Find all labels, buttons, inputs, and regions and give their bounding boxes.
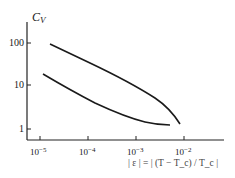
x-tick-exp: −2: [184, 146, 191, 154]
y-tick-label-10: 10: [2, 80, 24, 90]
y-tick-label-100: 100: [2, 38, 24, 48]
lower-curve: [43, 74, 170, 125]
y-axis-label: CV: [32, 12, 46, 25]
y-tick-label-1: 1: [2, 124, 24, 134]
x-tick-base: 10: [127, 147, 136, 157]
x-tick-base: 10: [30, 147, 39, 157]
x-tick-exp: −3: [136, 146, 143, 154]
y-label-sub: V: [40, 15, 46, 25]
x-tick-exp: −5: [39, 146, 46, 154]
x-tick-label-1e-2: 10−2: [175, 145, 191, 157]
x-tick-exp: −4: [88, 146, 95, 154]
x-axis-label: | ε | = | (T − T_c) / T_c |: [128, 158, 218, 168]
x-tick-label-1e-3: 10−3: [127, 145, 143, 157]
x-tick-base: 10: [79, 147, 88, 157]
x-tick-label-1e-4: 10−4: [79, 145, 95, 157]
x-tick-label-1e-5: 10−5: [30, 145, 46, 157]
y-label-main: C: [32, 10, 40, 24]
x-tick-base: 10: [175, 147, 184, 157]
